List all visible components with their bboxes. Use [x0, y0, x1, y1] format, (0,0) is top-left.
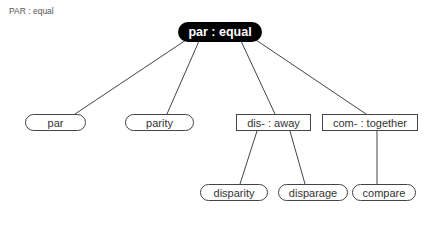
node-disparage: disparage	[278, 184, 348, 201]
node-com-together: com- : together	[322, 114, 418, 131]
node-disparity: disparity	[200, 184, 268, 201]
edge-root-dis	[241, 41, 275, 114]
edge-root-com	[256, 40, 366, 114]
edge-dis-disparity	[240, 131, 257, 184]
node-dis-away: dis- : away	[236, 114, 311, 131]
edge-root-parity	[167, 41, 199, 114]
edge-dis-disparage	[290, 131, 305, 184]
edge-root-par	[75, 40, 186, 114]
node-compare: compare	[352, 184, 416, 201]
node-parity: parity	[125, 114, 194, 131]
root-node: par : equal	[178, 22, 262, 42]
node-par: par	[25, 114, 86, 131]
